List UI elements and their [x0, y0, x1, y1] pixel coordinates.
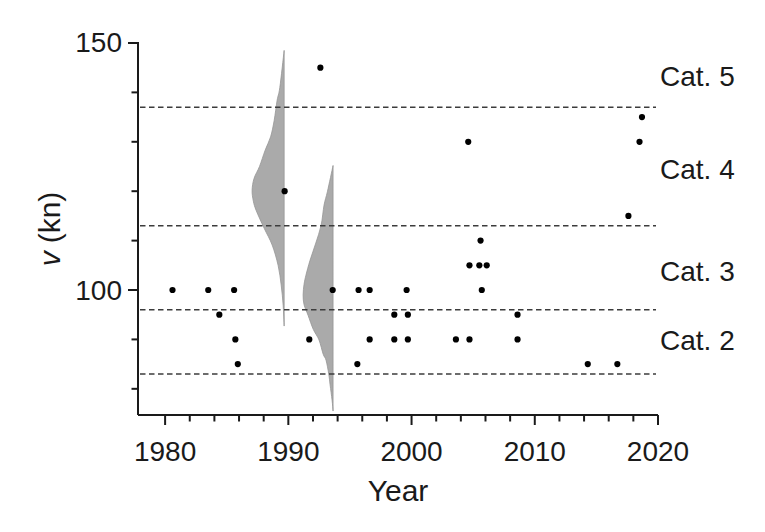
category-label: Cat. 2 — [660, 325, 735, 356]
data-point — [625, 213, 631, 219]
data-point — [405, 312, 411, 318]
data-point — [466, 262, 472, 268]
data-point — [232, 336, 238, 342]
data-point — [585, 361, 591, 367]
data-point — [169, 287, 175, 293]
data-point — [205, 287, 211, 293]
data-point — [306, 336, 312, 342]
violin-1989 — [252, 50, 284, 326]
x-tick-label: 1990 — [257, 436, 319, 467]
data-point — [514, 336, 520, 342]
data-point — [465, 139, 471, 145]
data-point — [636, 139, 642, 145]
data-point — [391, 336, 397, 342]
category-label: Cat. 4 — [660, 154, 735, 185]
data-point — [476, 262, 482, 268]
data-point — [216, 312, 222, 318]
x-axis-title: Year — [368, 474, 429, 507]
data-point — [405, 336, 411, 342]
x-tick-label: 2000 — [380, 436, 442, 467]
data-point — [317, 65, 323, 71]
data-point — [282, 188, 288, 194]
y-axis-title: v(kn) — [33, 192, 66, 267]
data-point — [404, 287, 410, 293]
hurricane-intensity-figure: 19801990200020102020100150Yearv(kn)Cat. … — [0, 0, 765, 532]
y-tick-label: 150 — [75, 27, 122, 58]
data-point — [235, 361, 241, 367]
data-point — [355, 287, 361, 293]
x-tick-label: 2020 — [627, 436, 689, 467]
data-point — [367, 336, 373, 342]
x-tick-label: 1980 — [134, 436, 196, 467]
x-tick-label: 2010 — [504, 436, 566, 467]
category-label: Cat. 5 — [660, 61, 735, 92]
data-point — [639, 114, 645, 120]
violin-1993 — [303, 166, 333, 412]
data-point — [367, 287, 373, 293]
data-point — [453, 336, 459, 342]
category-label: Cat. 3 — [660, 256, 735, 287]
data-point — [477, 238, 483, 244]
data-point — [391, 312, 397, 318]
data-point — [330, 287, 336, 293]
data-point — [479, 287, 485, 293]
data-point — [514, 312, 520, 318]
chart-canvas: 19801990200020102020100150Yearv(kn)Cat. … — [0, 0, 765, 532]
data-point — [614, 361, 620, 367]
data-point — [354, 361, 360, 367]
data-point — [231, 287, 237, 293]
y-tick-label: 100 — [75, 275, 122, 306]
data-point — [466, 336, 472, 342]
data-point — [484, 262, 490, 268]
